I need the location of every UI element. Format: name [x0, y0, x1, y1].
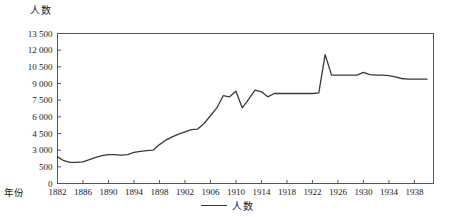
x-tick-label: 1934: [380, 187, 399, 197]
y-tick-label: 500: [39, 162, 53, 172]
y-tick-label: 6 000: [32, 112, 53, 122]
y-tick-marks: [58, 34, 62, 184]
x-tick-label: 1922: [303, 187, 321, 197]
x-tick-label: 1890: [99, 187, 118, 197]
legend-line-swatch: [201, 205, 227, 206]
x-tick-label: 1930: [354, 187, 373, 197]
x-tick-label: 1910: [227, 187, 246, 197]
x-tick-label: 1882: [49, 187, 67, 197]
x-tick-label: 1898: [150, 187, 169, 197]
y-tick-label: 9 000: [32, 79, 53, 89]
plot-frame: [58, 34, 434, 184]
x-tick-label: 1906: [201, 187, 220, 197]
x-tick-label: 1902: [176, 187, 194, 197]
x-tick-label: 1886: [74, 187, 93, 197]
x-axis-title: 年份: [4, 185, 24, 199]
y-tick-label: 10 500: [28, 62, 53, 72]
y-tick-label: 13 500: [28, 29, 53, 39]
y-tick-labels: 05003 0004 5006 0007 5009 00010 50012 00…: [28, 29, 53, 189]
data-series-line: [58, 55, 428, 163]
y-tick-label: 3 000: [32, 145, 53, 155]
legend: 人数: [0, 198, 454, 213]
y-tick-label: 12 000: [28, 45, 53, 55]
y-tick-label: 4 500: [32, 129, 53, 139]
x-tick-labels: 1882188618901894189819021906191019141918…: [49, 187, 424, 197]
line-chart-figure: 人数 05003 0004 5006 0007 5009 00010 50012…: [0, 0, 454, 217]
x-tick-label: 1914: [252, 187, 271, 197]
x-tick-label: 1938: [405, 187, 424, 197]
x-tick-label: 1926: [329, 187, 348, 197]
x-tick-label: 1918: [278, 187, 297, 197]
plot-area: 05003 0004 5006 0007 5009 00010 50012 00…: [0, 0, 454, 217]
x-tick-label: 1894: [125, 187, 144, 197]
legend-label: 人数: [232, 198, 253, 213]
x-tick-marks: [58, 180, 415, 184]
y-tick-label: 7 500: [32, 95, 53, 105]
